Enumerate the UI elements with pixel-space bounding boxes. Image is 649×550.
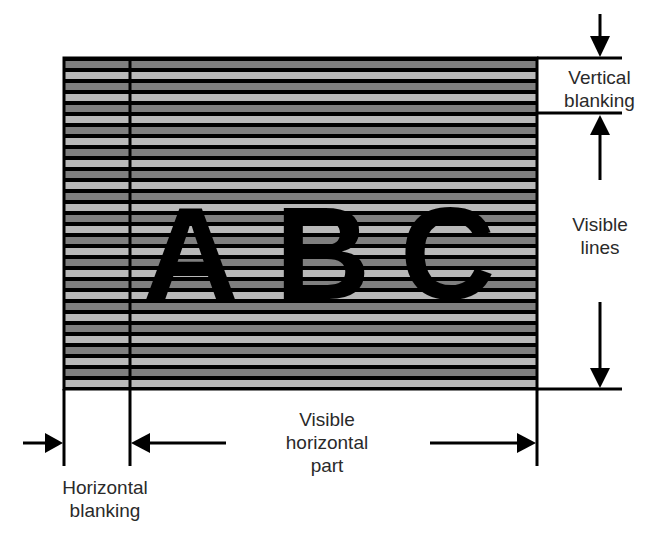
visible-horizontal-right-arrow-icon [430, 433, 536, 453]
horizontal-blanking-label: Horizontal blanking [50, 476, 160, 522]
vertical-blanking-arrow-icon [590, 14, 610, 57]
horizontal-blanking-label-line1: Horizontal [50, 476, 160, 499]
visible-lines-label: Visible lines [560, 213, 640, 259]
visible-horizontal-part-label: Visible horizontal part [262, 408, 392, 477]
visible-horizontal-part-label-line1: Visible [262, 408, 392, 431]
content-letter-b: B [275, 188, 370, 320]
visible-horizontal-left-arrow-icon [131, 433, 226, 453]
content-letter-c: C [400, 188, 495, 320]
content-letter-a: A [143, 188, 238, 320]
horizontal-blanking-right-arrow-icon [23, 433, 63, 453]
visible-lines-label-line1: Visible [560, 213, 640, 236]
visible-horizontal-part-label-line3: part [262, 454, 392, 477]
visible-lines-label-line2: lines [560, 236, 640, 259]
vertical-blanking-label: Vertical blanking [552, 66, 647, 112]
horizontal-blanking-label-line2: blanking [50, 499, 160, 522]
vertical-blanking-label-line2: blanking [552, 89, 647, 112]
visible-horizontal-part-label-line2: horizontal [262, 431, 392, 454]
visible-lines-down-arrow-icon [590, 302, 610, 388]
vertical-blanking-label-line1: Vertical [552, 66, 647, 89]
visible-lines-up-arrow-icon [590, 115, 610, 180]
